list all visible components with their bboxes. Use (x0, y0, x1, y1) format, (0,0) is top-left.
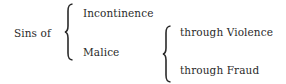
category-incontinence: Incontinence (83, 7, 154, 19)
subcategory-violence: through Violence (180, 26, 273, 38)
left-brace-icon (64, 3, 74, 61)
category-malice: Malice (83, 46, 119, 58)
root-label: Sins of (14, 27, 51, 39)
left-brace-icon (162, 25, 172, 83)
subcategory-fraud: through Fraud (180, 64, 259, 76)
